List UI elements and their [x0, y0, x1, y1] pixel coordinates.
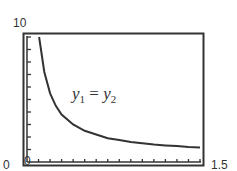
plot-area: y1 = y2	[0, 0, 237, 171]
curve-line	[39, 37, 200, 147]
equation-annotation: y1 = y2	[70, 84, 116, 105]
